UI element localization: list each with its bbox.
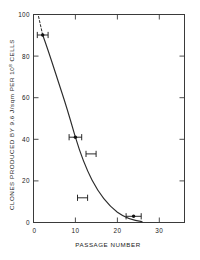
fitted-curve-path (43, 35, 142, 222)
y-tick-label: 40 (22, 136, 30, 143)
y-axis-title-main: CLONES PRODUCED BY 9.6 J/sqm PER 10 (8, 67, 15, 210)
y-axis-title: CLONES PRODUCED BY 9.6 J/sqm PER 108 CEL… (8, 39, 15, 210)
chart-figure: 100 80 60 40 20 0 0 10 20 30 PASSAGE NUM… (0, 0, 200, 260)
y-axis-title-tail: CELLS (8, 39, 15, 64)
data-points (37, 32, 141, 220)
x-tick-label: 20 (113, 227, 121, 234)
y-axis-ticks (34, 15, 39, 223)
extrapolation-dashed-line (38, 15, 43, 36)
x-tick-labels: 0 10 20 30 (33, 227, 164, 234)
y-tick-label: 0 (26, 219, 30, 226)
x-tick-label: 10 (71, 227, 79, 234)
x-tick-label: 0 (33, 227, 37, 234)
data-point (69, 134, 82, 140)
x-axis-title: PASSAGE NUMBER (75, 241, 140, 248)
y-tick-label: 80 (22, 53, 30, 60)
x-tick-label: 30 (155, 227, 163, 234)
y-tick-labels: 100 80 60 40 20 0 (18, 11, 30, 226)
y-axis-ticks-right (180, 56, 185, 181)
data-point (78, 195, 88, 201)
y-tick-label: 20 (22, 177, 30, 184)
y-tick-label: 60 (22, 94, 30, 101)
x-axis-ticks-top (75, 15, 159, 20)
data-point (86, 151, 96, 157)
y-tick-label: 100 (18, 11, 30, 18)
plot-frame (34, 15, 185, 223)
